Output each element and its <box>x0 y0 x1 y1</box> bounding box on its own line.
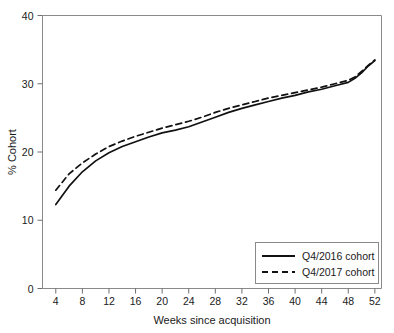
x-tick-label: 8 <box>79 295 85 307</box>
x-tick-label: 48 <box>342 295 354 307</box>
x-tick-label: 36 <box>263 295 275 307</box>
y-axis-title: % Cohort <box>6 129 18 175</box>
x-tick-label: 20 <box>156 295 168 307</box>
x-tick-label: 44 <box>316 295 328 307</box>
y-tick-label: 40 <box>22 10 34 22</box>
x-tick-label: 24 <box>183 295 195 307</box>
x-tick-label: 28 <box>209 295 221 307</box>
x-tick-label: 32 <box>236 295 248 307</box>
y-tick-label: 10 <box>22 214 34 226</box>
legend-label-q4-2017: Q4/2017 cohort <box>302 266 374 278</box>
x-tick-label: 16 <box>130 295 142 307</box>
y-tick-label: 20 <box>22 146 34 158</box>
x-tick-label: 40 <box>289 295 301 307</box>
y-tick-label: 0 <box>28 283 34 295</box>
y-tick-label: 30 <box>22 78 34 90</box>
chart-figure: 010203040 481216202428323640444852 Weeks… <box>0 0 394 333</box>
x-tick-label: 4 <box>53 295 59 307</box>
line-chart: 010203040 481216202428323640444852 Weeks… <box>0 0 394 333</box>
x-axis-title: Weeks since acquisition <box>153 314 270 326</box>
legend-label-q4-2016: Q4/2016 cohort <box>302 250 374 262</box>
chart-legend[interactable]: Q4/2016 cohort Q4/2017 cohort <box>256 243 379 284</box>
x-tick-label: 52 <box>369 295 381 307</box>
x-tick-label: 12 <box>103 295 115 307</box>
